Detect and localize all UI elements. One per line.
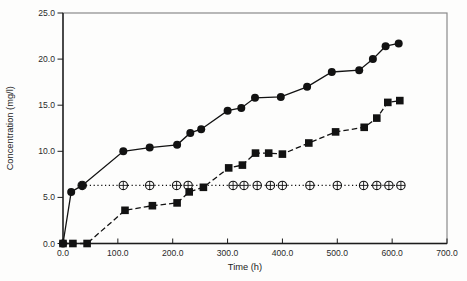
filled-circle-marker (59, 240, 67, 248)
x-tick-label: 700.0 (436, 248, 458, 258)
filled-square-marker (332, 128, 340, 136)
filled-square-marker (279, 150, 287, 158)
x-tick-label: 500.0 (327, 248, 349, 258)
filled-circle-marker (382, 42, 390, 50)
filled-square-marker (239, 161, 247, 169)
filled-circle-marker (224, 107, 232, 115)
filled-square-marker (83, 240, 91, 248)
filled-square-marker (252, 149, 260, 157)
filled-circle-marker (146, 144, 154, 152)
filled-circle-marker (355, 66, 363, 74)
x-tick-label: 0.0 (57, 248, 69, 258)
filled-circle-marker (369, 55, 377, 63)
y-tick-label: 25.0 (38, 8, 55, 18)
filled-circle-solid-series-line (63, 43, 399, 243)
x-tick-label: 400.0 (272, 248, 294, 258)
filled-circle-marker (277, 93, 285, 101)
filled-circle-marker (78, 181, 86, 189)
x-tick-label: 300.0 (217, 248, 239, 258)
filled-circle-marker (303, 83, 311, 91)
y-tick-label: 10.0 (38, 146, 55, 156)
x-tick-label: 200.0 (162, 248, 184, 258)
filled-square-marker (149, 202, 157, 210)
x-axis-title: Time (h) (228, 262, 262, 272)
filled-circle-marker (328, 68, 336, 76)
filled-circle-marker (119, 147, 127, 155)
figure: 0.0100.0200.0300.0400.0500.0600.0700.00.… (0, 0, 467, 281)
filled-circle-marker (237, 104, 245, 112)
y-tick-label: 20.0 (38, 54, 55, 64)
filled-square-marker (69, 240, 77, 248)
filled-square-marker (200, 184, 208, 192)
filled-square-marker (185, 188, 193, 196)
filled-circle-marker (173, 141, 181, 149)
y-tick-label: 15.0 (38, 100, 55, 110)
filled-square-marker (173, 199, 181, 207)
filled-circle-marker (67, 188, 75, 196)
x-tick-label: 100.0 (107, 248, 129, 258)
x-tick-label: 600.0 (381, 248, 403, 258)
y-tick-label: 5.0 (43, 192, 55, 202)
axes (63, 13, 447, 244)
filled-square-marker (225, 164, 233, 172)
filled-square-marker (360, 124, 368, 132)
filled-square-marker (396, 97, 404, 105)
plot-frame (63, 13, 447, 244)
y-axis-title: Concentration (mg/l) (5, 86, 15, 170)
filled-square-marker (121, 207, 129, 215)
filled-circle-marker (395, 39, 403, 47)
filled-square-dashed-series-line (63, 101, 400, 244)
filled-square-marker (384, 99, 392, 107)
filled-circle-marker (186, 129, 194, 137)
y-tick-label: 0.0 (43, 239, 55, 249)
filled-circle-marker (251, 94, 259, 102)
filled-circle-marker (197, 125, 205, 133)
filled-square-marker (265, 149, 273, 157)
concentration-time-chart: 0.0100.0200.0300.0400.0500.0600.0700.00.… (0, 0, 467, 281)
filled-square-marker (373, 114, 381, 122)
filled-square-marker (305, 139, 313, 147)
